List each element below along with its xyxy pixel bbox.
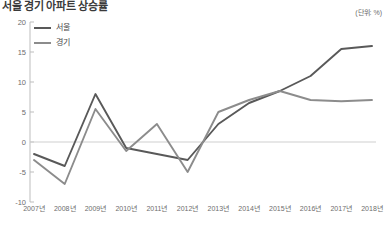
series-line-경기 (34, 91, 372, 184)
chart-container: 서울 경기 아파트 상승률 (단위: %) 20151050-5-10 2007… (0, 0, 386, 226)
series-line-서울 (34, 46, 372, 166)
plot-area (0, 0, 386, 226)
